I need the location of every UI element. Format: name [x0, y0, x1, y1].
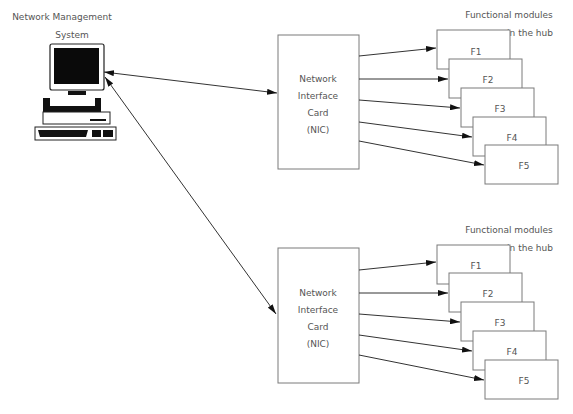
nic-box [278, 35, 359, 169]
network-management-diagram: Network Management System Network Interf… [0, 0, 573, 414]
nic-label-line1: Network [299, 288, 337, 298]
module-label-f3: F3 [495, 318, 506, 328]
module-label-f1: F1 [471, 261, 482, 271]
link-nic-f3 [359, 314, 460, 322]
link-nic-f5 [359, 141, 484, 165]
modules-label-line2: in the hub [507, 243, 553, 253]
nic-label-line3: Card [307, 108, 328, 118]
nic-label-line1: Network [299, 74, 337, 84]
hub-group-top: Network Interface Card (NIC) Functional … [278, 10, 558, 184]
nic-label-line2: Interface [298, 91, 339, 101]
link-nic-f5 [359, 355, 484, 380]
modules-label-line1: Functional modules [465, 225, 553, 235]
nic-label-line2: Interface [298, 305, 339, 315]
link-nic-f4 [359, 335, 472, 351]
modules-label-line2: in the hub [507, 28, 553, 38]
nic-label-line3: Card [307, 322, 328, 332]
hub-group-bottom: Network Interface Card (NIC) Functional … [278, 225, 558, 399]
link-nic-f1 [359, 262, 436, 270]
module-label-f5: F5 [519, 161, 530, 171]
nms-title-line1: Network Management [12, 12, 112, 22]
nms-title-line2: System [55, 30, 89, 40]
module-label-f4: F4 [507, 347, 518, 357]
link-nic-f3 [359, 100, 460, 108]
module-label-f3: F3 [495, 104, 506, 114]
link-nms-nic-bottom [105, 77, 276, 314]
link-nms-nic-top [104, 72, 277, 93]
module-label-f4: F4 [507, 133, 518, 143]
modules-label-line1: Functional modules [465, 10, 553, 20]
nic-label-line4: (NIC) [307, 339, 330, 349]
computer-workstation-icon [35, 44, 116, 140]
nic-box [278, 248, 359, 383]
module-label-f5: F5 [519, 376, 530, 386]
nic-label-line4: (NIC) [307, 125, 330, 135]
module-label-f1: F1 [471, 47, 482, 57]
link-nic-f1 [359, 48, 436, 56]
module-label-f2: F2 [483, 289, 494, 299]
link-nic-f4 [359, 122, 472, 137]
module-label-f2: F2 [483, 75, 494, 85]
